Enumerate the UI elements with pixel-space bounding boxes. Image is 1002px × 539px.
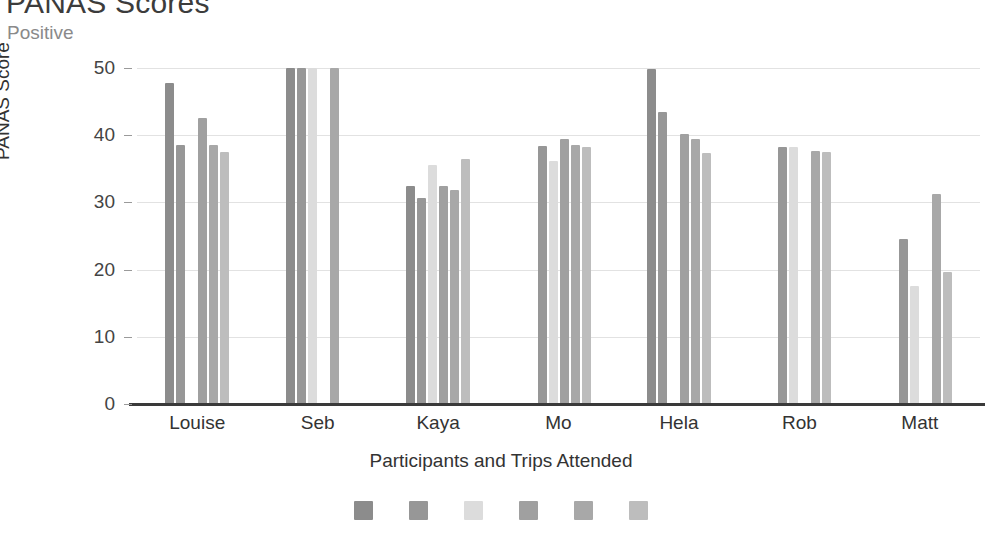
y-tick-label: 50 xyxy=(55,57,115,79)
bar xyxy=(450,190,459,404)
bar xyxy=(538,146,547,404)
x-tick-label: Matt xyxy=(901,412,938,434)
y-tick-label: 30 xyxy=(55,191,115,213)
bar xyxy=(702,153,711,404)
y-tick-mark xyxy=(124,135,132,136)
legend-swatch[interactable] xyxy=(464,501,483,520)
bar xyxy=(417,198,426,404)
bar xyxy=(932,194,941,404)
bar xyxy=(176,145,185,404)
y-tick-label: 40 xyxy=(55,124,115,146)
bar xyxy=(439,186,448,404)
bar xyxy=(778,147,787,404)
bar xyxy=(582,147,591,404)
bar xyxy=(811,151,820,404)
y-tick-mark xyxy=(124,202,132,203)
bar xyxy=(461,159,470,404)
bar xyxy=(198,118,207,404)
chart-subtitle: Positive xyxy=(7,22,74,44)
y-axis-title: PANAS Score xyxy=(0,42,14,160)
y-tick-label: 10 xyxy=(55,326,115,348)
gridline xyxy=(137,135,980,136)
bar xyxy=(910,286,919,404)
plot-area xyxy=(137,68,980,404)
y-tick-mark xyxy=(124,270,132,271)
legend-swatch[interactable] xyxy=(574,501,593,520)
bar xyxy=(899,239,908,404)
y-tick-label: 0 xyxy=(55,393,115,415)
bar xyxy=(209,145,218,404)
bar xyxy=(428,165,437,404)
chart-title: PANAS Scores xyxy=(6,0,210,20)
x-tick-label: Rob xyxy=(782,412,817,434)
bar xyxy=(286,68,295,404)
x-tick-label: Kaya xyxy=(416,412,459,434)
legend-swatch[interactable] xyxy=(519,501,538,520)
y-tick-label: 20 xyxy=(55,259,115,281)
bar xyxy=(658,112,667,404)
bar xyxy=(308,68,317,404)
y-tick-mark xyxy=(124,404,132,405)
x-axis-line xyxy=(129,403,985,406)
bar xyxy=(571,145,580,404)
chart-legend xyxy=(0,501,1002,520)
gridline xyxy=(137,270,980,271)
bar xyxy=(165,83,174,404)
gridline xyxy=(137,202,980,203)
bar xyxy=(789,147,798,404)
legend-swatch[interactable] xyxy=(629,501,648,520)
bar xyxy=(297,68,306,404)
x-tick-label: Mo xyxy=(545,412,571,434)
bar xyxy=(220,152,229,404)
legend-swatch[interactable] xyxy=(354,501,373,520)
x-tick-label: Hela xyxy=(659,412,698,434)
x-tick-label: Seb xyxy=(301,412,335,434)
bar xyxy=(691,139,700,404)
bar xyxy=(330,68,339,404)
bar xyxy=(406,186,415,404)
x-tick-label: Louise xyxy=(169,412,225,434)
bar xyxy=(822,152,831,404)
gridline xyxy=(137,337,980,338)
chart-canvas: PANAS Scores Positive PANAS Score 010203… xyxy=(0,0,1002,539)
bar xyxy=(549,161,558,404)
x-axis-title: Participants and Trips Attended xyxy=(0,450,1002,472)
y-tick-mark xyxy=(124,337,132,338)
bar xyxy=(647,69,656,404)
legend-swatch[interactable] xyxy=(409,501,428,520)
bar xyxy=(943,272,952,404)
bar xyxy=(560,139,569,404)
gridline xyxy=(137,68,980,69)
y-tick-mark xyxy=(124,68,132,69)
bar xyxy=(680,134,689,404)
